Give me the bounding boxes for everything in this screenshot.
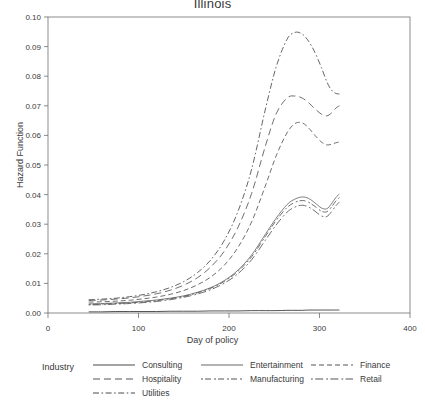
series-line — [89, 32, 340, 300]
chart-legend: Industry ConsultingHospitalityUtilities … — [0, 358, 425, 403]
svg-text:0: 0 — [46, 324, 51, 333]
legend-column-2: EntertainmentManufacturing — [200, 358, 304, 386]
legend-column-3: FinanceRetail — [310, 358, 390, 386]
chart-figure: Illinois Hazard Function 0.000.010.020.0… — [0, 0, 425, 403]
legend-label: Utilities — [142, 388, 169, 398]
legend-swatch-finance — [310, 360, 354, 370]
legend-swatch-entertainment — [200, 360, 244, 370]
legend-entry[interactable]: Consulting — [92, 358, 182, 372]
series-line — [89, 122, 340, 302]
svg-text:0.01: 0.01 — [25, 279, 41, 288]
legend-swatch-manufacturing — [200, 374, 244, 384]
legend-entry[interactable]: Manufacturing — [200, 372, 304, 386]
legend-swatch-utilities — [92, 388, 136, 398]
legend-swatch-retail — [310, 374, 354, 384]
legend-entry[interactable]: Hospitality — [92, 372, 182, 386]
legend-entry[interactable]: Entertainment — [200, 358, 304, 372]
legend-swatch-consulting — [92, 360, 136, 370]
svg-text:0.04: 0.04 — [25, 191, 41, 200]
svg-text:0.09: 0.09 — [25, 43, 41, 52]
legend-entry[interactable]: Utilities — [92, 386, 182, 400]
svg-text:0.07: 0.07 — [25, 102, 41, 111]
legend-entry[interactable]: Finance — [310, 358, 390, 372]
legend-column-1: ConsultingHospitalityUtilities — [92, 358, 182, 400]
svg-text:0.03: 0.03 — [25, 220, 41, 229]
x-axis-label: Day of policy — [0, 335, 425, 345]
series-line — [89, 96, 340, 301]
svg-text:0.02: 0.02 — [25, 250, 41, 259]
svg-text:400: 400 — [403, 324, 417, 333]
svg-text:200: 200 — [222, 324, 236, 333]
svg-text:0.08: 0.08 — [25, 72, 41, 81]
svg-text:0.06: 0.06 — [25, 131, 41, 140]
series-line — [89, 310, 340, 312]
legend-swatch-hospitality — [92, 374, 136, 384]
svg-text:100: 100 — [132, 324, 146, 333]
legend-label: Consulting — [142, 360, 182, 370]
svg-text:0.00: 0.00 — [25, 309, 41, 318]
series-line — [89, 202, 340, 305]
legend-label: Finance — [360, 360, 390, 370]
legend-label: Retail — [360, 374, 382, 384]
legend-label: Manufacturing — [250, 374, 304, 384]
legend-entry[interactable]: Retail — [310, 372, 390, 386]
legend-label: Hospitality — [142, 374, 181, 384]
series-line — [89, 194, 340, 304]
plot-area: 0.000.010.020.030.040.050.060.070.080.09… — [0, 0, 425, 340]
svg-text:0.10: 0.10 — [25, 13, 41, 22]
legend-label: Entertainment — [250, 360, 303, 370]
svg-text:0.05: 0.05 — [25, 161, 41, 170]
svg-text:300: 300 — [313, 324, 327, 333]
legend-title: Industry — [42, 362, 74, 372]
